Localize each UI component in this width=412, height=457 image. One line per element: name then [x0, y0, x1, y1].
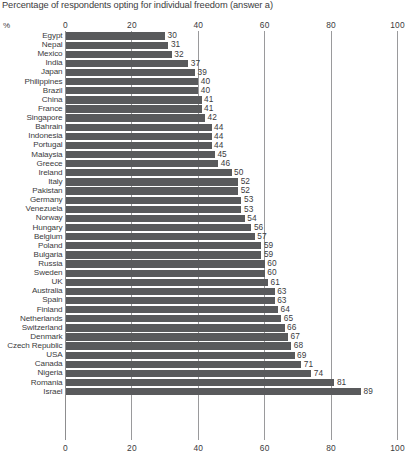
category-label-denmark: Denmark [1, 332, 63, 341]
category-label-hungary: Hungary [1, 223, 63, 232]
bar-indonesia [66, 133, 212, 140]
category-label-ireland: Ireland [1, 168, 63, 177]
bar-denmark [66, 333, 288, 340]
bar-china [66, 96, 202, 103]
bar-value-canada: 71 [304, 360, 313, 369]
category-label-czech-republic: Czech Republic [1, 341, 63, 350]
bar-israel [66, 388, 361, 395]
bar-value-greece: 46 [221, 159, 230, 168]
x-tick-label-bottom-60: 60 [260, 443, 270, 453]
category-label-venezuela: Venezuela [1, 204, 63, 213]
category-label-nigeria: Nigeria [1, 368, 63, 377]
category-label-israel: Israel [1, 387, 63, 396]
bar-value-nigeria: 74 [314, 369, 323, 378]
bar-romania [66, 379, 335, 386]
bar-value-israel: 89 [363, 387, 372, 396]
category-label-indonesia: Indonesia [1, 131, 63, 140]
bar-india [66, 60, 189, 67]
category-label-russia: Russia [1, 259, 63, 268]
bar-uk [66, 279, 269, 286]
bar-france [66, 105, 202, 112]
bar-belgium [66, 233, 255, 240]
bar-singapore [66, 114, 205, 121]
bar-spain [66, 297, 275, 304]
bar-nepal [66, 42, 169, 49]
category-label-brazil: Brazil [1, 86, 63, 95]
bar-philippines [66, 78, 199, 85]
x-tick-label-bottom-100: 100 [390, 443, 405, 453]
category-label-mexico: Mexico [1, 49, 63, 58]
bar-hungary [66, 224, 252, 231]
bar-italy [66, 178, 239, 185]
bar-chart: Percentage of respondents opting for ind… [0, 0, 412, 457]
category-label-malaysia: Malaysia [1, 150, 63, 159]
category-label-usa: USA [1, 350, 63, 359]
category-label-netherlands: Netherlands [1, 314, 63, 323]
category-label-finland: Finland [1, 305, 63, 314]
bar-pakistan [66, 187, 239, 194]
bar-value-romania: 81 [337, 378, 346, 387]
category-label-portugal: Portugal [1, 140, 63, 149]
bar-finland [66, 306, 278, 313]
bar-malaysia [66, 151, 215, 158]
x-tick-label-bottom-0: 0 [63, 443, 68, 453]
bar-bahrain [66, 124, 212, 131]
bar-portugal [66, 142, 212, 149]
category-label-nepal: Nepal [1, 40, 63, 49]
category-label-germany: Germany [1, 195, 63, 204]
category-label-romania: Romania [1, 378, 63, 387]
bar-sweden [66, 270, 265, 277]
category-label-belgium: Belgium [1, 232, 63, 241]
category-label-sweden: Sweden [1, 268, 63, 277]
x-tick-label-bottom-20: 20 [127, 443, 137, 453]
x-tick-label-top-100: 100 [390, 20, 405, 30]
bar-egypt [66, 32, 166, 39]
bar-venezuela [66, 206, 242, 213]
category-label-singapore: Singapore [1, 113, 63, 122]
bar-greece [66, 160, 219, 167]
x-tick-label-top-80: 80 [326, 20, 336, 30]
plot-area: 002020404060608080100100Egypt30Nepal31Me… [0, 0, 412, 457]
category-label-japan: Japan [1, 67, 63, 76]
bar-nigeria [66, 370, 312, 377]
bar-czech-republic [66, 342, 292, 349]
x-tick-label-bottom-40: 40 [193, 443, 203, 453]
bar-germany [66, 197, 242, 204]
bar-russia [66, 260, 265, 267]
bar-brazil [66, 87, 199, 94]
category-label-egypt: Egypt [1, 31, 63, 40]
category-label-china: China [1, 95, 63, 104]
category-label-canada: Canada [1, 359, 63, 368]
bar-value-mexico: 32 [174, 50, 183, 59]
category-label-uk: UK [1, 277, 63, 286]
x-tick-label-top-20: 20 [127, 20, 137, 30]
bar-australia [66, 288, 275, 295]
category-label-switzerland: Switzerland [1, 323, 63, 332]
category-label-bulgaria: Bulgaria [1, 250, 63, 259]
category-label-norway: Norway [1, 213, 63, 222]
bar-norway [66, 215, 245, 222]
x-tick-label-top-40: 40 [193, 20, 203, 30]
category-label-bahrain: Bahrain [1, 122, 63, 131]
bar-bulgaria [66, 251, 262, 258]
category-label-philippines: Philippines [1, 77, 63, 86]
category-label-italy: Italy [1, 177, 63, 186]
x-tick-label-bottom-80: 80 [326, 443, 336, 453]
bar-usa [66, 352, 295, 359]
bar-netherlands [66, 315, 282, 322]
category-label-spain: Spain [1, 295, 63, 304]
category-label-pakistan: Pakistan [1, 186, 63, 195]
bar-ireland [66, 169, 232, 176]
category-label-australia: Australia [1, 286, 63, 295]
chart-row: Israel89 [0, 387, 412, 396]
category-label-greece: Greece [1, 159, 63, 168]
bar-mexico [66, 51, 172, 58]
bar-poland [66, 242, 262, 249]
bar-switzerland [66, 324, 285, 331]
x-tick-label-top-60: 60 [260, 20, 270, 30]
category-label-india: India [1, 58, 63, 67]
category-label-poland: Poland [1, 241, 63, 250]
bar-japan [66, 69, 195, 76]
x-tick-label-top-0: 0 [63, 20, 68, 30]
bar-canada [66, 361, 302, 368]
